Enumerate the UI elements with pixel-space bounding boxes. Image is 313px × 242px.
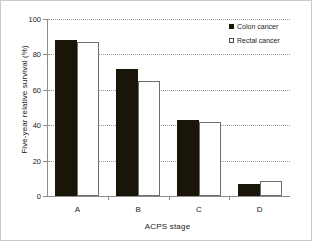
bar-d-rectal-cancer <box>260 181 282 196</box>
y-tick-label: 80 <box>33 50 41 59</box>
bar-c-colon-cancer <box>177 120 199 196</box>
x-tick-label-d: D <box>257 205 263 214</box>
y-tick-label: 60 <box>33 85 41 94</box>
y-tick-label: 0 <box>37 192 41 201</box>
y-tick-mark <box>43 161 47 162</box>
bar-c-rectal-cancer <box>199 122 221 196</box>
y-axis-line <box>47 19 48 196</box>
x-category-separator <box>108 196 109 200</box>
y-tick-label: 20 <box>33 156 41 165</box>
legend-label: Rectal cancer <box>237 37 280 44</box>
y-tick-mark <box>43 196 47 197</box>
x-category-separator <box>169 196 170 200</box>
filled-square-icon <box>229 24 234 29</box>
bar-a-colon-cancer <box>55 40 77 196</box>
y-axis-title: Five-year relative survival (%) <box>20 10 29 190</box>
y-tick-mark <box>43 54 47 55</box>
x-category-separator <box>229 196 230 200</box>
x-tick-label-c: C <box>196 205 202 214</box>
x-tick-label-a: A <box>75 205 80 214</box>
legend-label: Colon cancer <box>237 23 278 30</box>
y-tick-label: 40 <box>33 121 41 130</box>
bar-d-colon-cancer <box>238 184 260 196</box>
y-tick-mark <box>43 19 47 20</box>
open-square-icon <box>229 38 234 43</box>
y-tick-mark <box>43 90 47 91</box>
y-tick-mark <box>43 125 47 126</box>
chart-legend: Colon cancerRectal cancer <box>229 23 280 51</box>
gridline <box>48 19 290 20</box>
y-tick-label: 100 <box>28 15 41 24</box>
legend-item-colon-cancer: Colon cancer <box>229 23 280 30</box>
bar-b-rectal-cancer <box>138 81 160 196</box>
x-axis-title: ACPS stage <box>44 222 291 231</box>
chart-figure: Five-year relative survival (%) ACPS sta… <box>0 0 313 242</box>
x-tick-label-b: B <box>135 205 140 214</box>
bar-a-rectal-cancer <box>77 42 99 196</box>
bar-b-colon-cancer <box>116 69 138 196</box>
legend-item-rectal-cancer: Rectal cancer <box>229 37 280 44</box>
